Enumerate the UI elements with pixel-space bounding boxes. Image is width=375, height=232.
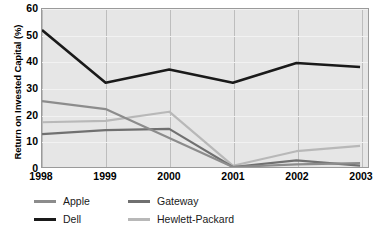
legend-swatch-icon (128, 218, 150, 221)
series-line-gateway (42, 129, 360, 167)
legend-item-gateway[interactable]: Gateway (128, 192, 334, 210)
x-tick-2002: 2002 (272, 170, 322, 182)
series-line-hewlett-packard (42, 112, 360, 166)
y-tick-50: 50 (14, 29, 38, 41)
plot-area (41, 8, 369, 168)
series-line-apple (42, 101, 360, 167)
x-tick-1999: 1999 (80, 170, 130, 182)
legend-swatch-icon (34, 218, 56, 221)
y-tick-10: 10 (14, 135, 38, 147)
x-tick-2000: 2000 (144, 170, 194, 182)
x-axis-tick-labels: 199819992000200120022003 (41, 170, 369, 186)
series-line-dell (42, 30, 360, 83)
series-lines-layer (42, 9, 368, 167)
legend-item-hewlett-packard[interactable]: Hewlett-Packard (128, 210, 334, 228)
y-tick-30: 30 (14, 82, 38, 94)
y-axis-tick-labels: 0102030405060 (14, 8, 38, 168)
legend-swatch-icon (128, 200, 150, 203)
legend-label: Gateway (157, 195, 198, 207)
x-tick-2003: 2003 (336, 170, 375, 182)
legend-item-dell[interactable]: Dell (34, 210, 122, 228)
chart-figure: Return on Invested Capital (%) 010203040… (0, 0, 375, 232)
x-tick-1998: 1998 (16, 170, 66, 182)
y-tick-40: 40 (14, 55, 38, 67)
legend-item-apple[interactable]: Apple (34, 192, 122, 210)
legend-swatch-icon (34, 200, 56, 203)
y-tick-20: 20 (14, 109, 38, 121)
legend-label: Hewlett-Packard (157, 213, 234, 225)
chart-legend: AppleGatewayDellHewlett-Packard (34, 192, 334, 228)
x-tick-2001: 2001 (208, 170, 258, 182)
y-tick-60: 60 (14, 2, 38, 14)
legend-label: Apple (63, 195, 90, 207)
legend-label: Dell (63, 213, 81, 225)
